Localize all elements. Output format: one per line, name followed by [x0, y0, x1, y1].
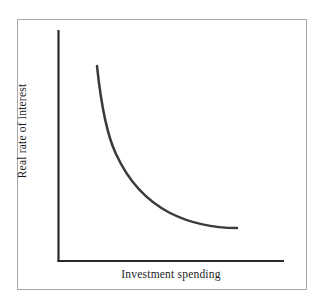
- plot-area: [0, 0, 316, 305]
- x-axis-label: Investment spending: [58, 269, 284, 281]
- figure-root: Investment spending Real rate of interes…: [0, 0, 316, 305]
- investment-demand-curve: [97, 66, 237, 228]
